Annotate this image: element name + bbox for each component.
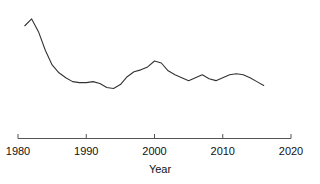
x-axis-tick-label-1990: 1990 [74, 145, 98, 157]
x-axis-tick-label-2000: 2000 [142, 145, 166, 157]
data-line-group [25, 19, 264, 89]
x-axis-title: Year [0, 163, 320, 175]
x-axis-group [18, 134, 291, 139]
x-axis-tick-label-2020: 2020 [279, 145, 303, 157]
x-axis-tick-marks [18, 134, 291, 139]
x-axis-tick-label-1980: 1980 [6, 145, 30, 157]
line-chart: 19801990200020102020 Year [0, 0, 320, 184]
x-axis-tick-label-2010: 2010 [211, 145, 235, 157]
data-series-line [25, 19, 264, 89]
